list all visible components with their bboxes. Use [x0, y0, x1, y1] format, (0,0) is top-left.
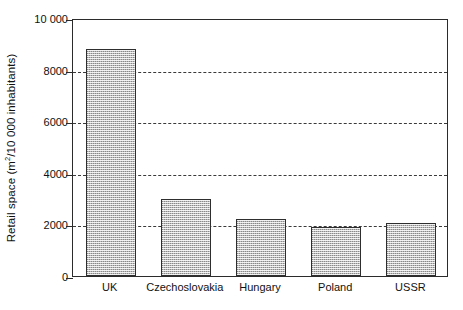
plot-inner [73, 20, 447, 276]
y-axis-title-superscript: 2 [3, 157, 12, 161]
y-axis-tick-labels: 0200040006000800010 000 [14, 0, 68, 310]
x-axis-tick-label: USSR [395, 281, 426, 293]
x-axis-tick-labels: UKCzechoslovakiaHungaryPolandUSSR [72, 281, 448, 303]
y-axis-tick-mark [66, 175, 73, 176]
y-axis-tick-label: 2000 [14, 219, 68, 231]
y-axis-tick-mark [66, 278, 73, 279]
bar [161, 199, 211, 276]
x-axis-tick-label: Czechoslovakia [146, 281, 223, 293]
y-axis-tick-label: 10 000 [14, 13, 68, 25]
y-axis-tick-label: 6000 [14, 116, 68, 128]
y-axis-tick-mark [66, 72, 73, 73]
x-axis-tick-label: UK [102, 281, 117, 293]
bar [311, 227, 361, 276]
bar-chart-figure: Retail space (m2/10 000 inhabitants) 020… [0, 0, 463, 310]
bar [86, 49, 136, 276]
x-axis-tick-label: Poland [318, 281, 352, 293]
y-axis-tick-mark [66, 226, 73, 227]
plot-area [72, 19, 448, 277]
y-axis-tick-label: 0 [14, 271, 68, 283]
y-axis-tick-label: 8000 [14, 65, 68, 77]
x-axis-tick-label: Hungary [239, 281, 281, 293]
bar [236, 219, 286, 276]
bar [386, 223, 436, 276]
y-axis-tick-mark [66, 123, 73, 124]
y-axis-tick-label: 4000 [14, 168, 68, 180]
y-axis-tick-mark [66, 20, 73, 21]
